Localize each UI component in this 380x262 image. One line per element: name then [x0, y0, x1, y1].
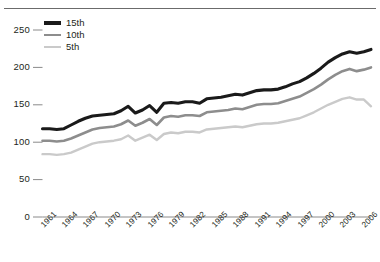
chart-figure: 050100150200250 196119641967197019731976… [0, 0, 380, 262]
legend-item-15th: 15th [44, 17, 85, 29]
series-line-5th [43, 97, 372, 155]
legend-swatch-icon [44, 34, 61, 37]
legend-label: 5th [66, 41, 79, 53]
legend-swatch-icon [44, 46, 61, 49]
y-axis-tick-label: 250 [0, 24, 30, 35]
legend-item-5th: 5th [44, 41, 85, 53]
chart-legend: 15th10th5th [44, 17, 85, 53]
legend-swatch-icon [44, 21, 61, 25]
series-line-15th [43, 49, 372, 129]
y-axis-tick-label: 100 [0, 136, 30, 147]
y-axis-tick-label: 200 [0, 61, 30, 72]
legend-item-10th: 10th [44, 29, 85, 41]
legend-label: 10th [66, 29, 85, 41]
y-axis-tick-label: 150 [0, 98, 30, 109]
legend-label: 15th [66, 17, 85, 29]
y-axis-tick-label: 50 [0, 173, 30, 184]
y-axis-tick-label: 0 [0, 211, 30, 222]
